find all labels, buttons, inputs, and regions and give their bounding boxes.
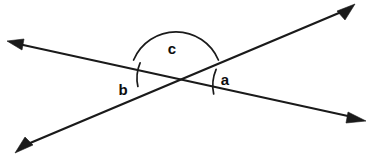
angle-arc-a xyxy=(213,69,216,94)
line-upper-left-to-lower-right xyxy=(14,43,357,118)
geometry-figure: a b c xyxy=(0,0,374,160)
line-lower-left-to-upper-right xyxy=(23,10,346,146)
angle-arc-b xyxy=(137,63,140,87)
figure-canvas xyxy=(0,0,374,160)
arrowhead-upper-right-icon xyxy=(337,4,355,20)
angle-label-b: b xyxy=(118,82,127,97)
angle-label-a: a xyxy=(221,72,229,87)
angle-label-c: c xyxy=(168,41,176,56)
arrowhead-lower-right-icon xyxy=(346,112,366,123)
arrowhead-lower-left-icon xyxy=(15,137,33,153)
arrowhead-upper-left-icon xyxy=(7,39,24,50)
